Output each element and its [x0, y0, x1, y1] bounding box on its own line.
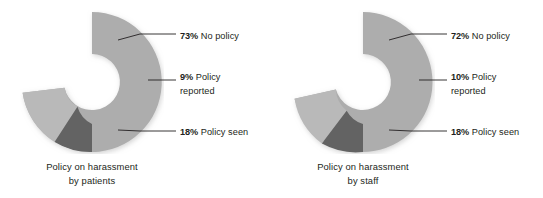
label-policy-reported-text-line2: reported [451, 86, 486, 96]
chart-caption-patients-line2: by patients [0, 174, 184, 188]
label-no-policy-text: No policy [472, 31, 510, 41]
label-no-policy-percent: 72% [451, 31, 469, 41]
chart-caption-patients-line1: Policy on harassment [46, 161, 138, 172]
label-policy-reported-text: Policy [196, 72, 221, 82]
label-no-policy-text: No policy [201, 31, 239, 41]
label-policy-reported-text-line2: reported [180, 86, 215, 96]
label-policy-seen-percent: 18% [451, 127, 469, 137]
label-policy-reported-percent: 10% [451, 72, 469, 82]
chart-labels-patients: 73% No policy 9% Policy reported 18% Pol… [0, 0, 272, 160]
label-no-policy: 72% No policy [451, 30, 510, 44]
label-no-policy-percent: 73% [180, 31, 198, 41]
chart-caption-staff: Policy on harassment by staff [271, 160, 455, 188]
chart-caption-patients: Policy on harassment by patients [0, 160, 184, 188]
label-policy-seen: 18% Policy seen [180, 126, 248, 140]
label-policy-seen-percent: 18% [180, 127, 198, 137]
label-policy-reported: 9% Policy reported [180, 71, 250, 98]
label-policy-seen: 18% Policy seen [451, 126, 519, 140]
chart-caption-staff-line1: Policy on harassment [317, 161, 409, 172]
label-policy-reported-percent: 9% [180, 72, 193, 82]
chart-caption-staff-line2: by staff [271, 174, 455, 188]
label-policy-reported: 10% Policy reported [451, 71, 521, 98]
label-policy-seen-text: Policy seen [201, 127, 249, 137]
chart-labels-staff: 72% No policy 10% Policy reported 18% Po… [271, 0, 543, 160]
label-policy-reported-text: Policy [472, 72, 497, 82]
dual-donut-chart-figure: 73% No policy 9% Policy reported 18% Pol… [0, 0, 543, 198]
chart-panel-patients: 73% No policy 9% Policy reported 18% Pol… [0, 0, 272, 198]
chart-panel-staff: 72% No policy 10% Policy reported 18% Po… [271, 0, 543, 198]
label-no-policy: 73% No policy [180, 30, 239, 44]
label-policy-seen-text: Policy seen [472, 127, 520, 137]
